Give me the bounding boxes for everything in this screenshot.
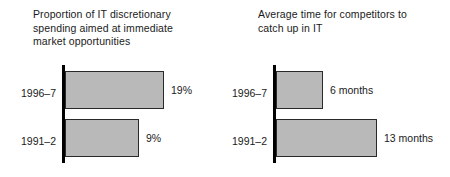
plot-area: 1996–7 19% 1991–2 9% (0, 55, 225, 177)
panel-title: Proportion of IT discretionary spending … (33, 8, 218, 49)
bar-1996-7 (276, 71, 323, 109)
bar-1991-2 (65, 119, 139, 157)
bar-value-label-1996-7: 6 months (330, 85, 373, 96)
category-label-1996-7: 1996–7 (219, 88, 267, 99)
bar-value-label-1996-7: 19% (171, 85, 192, 96)
bar-1996-7 (65, 71, 164, 109)
chart-panel-it-discretionary-spending: Proportion of IT discretionary spending … (0, 0, 225, 177)
bar-value-label-1991-2: 9% (146, 133, 161, 144)
bar-row: 9% (65, 119, 161, 157)
category-label-1991-2: 1991–2 (219, 136, 267, 147)
panel-title: Average time for competitors to catch up… (258, 8, 443, 35)
bar-row: 13 months (276, 119, 433, 157)
bar-value-label-1991-2: 13 months (384, 133, 433, 144)
bar-row: 19% (65, 71, 192, 109)
category-label-1996-7: 1996–7 (8, 88, 56, 99)
plot-area: 1996–7 6 months 1991–2 13 months (225, 55, 450, 177)
bar-row: 6 months (276, 71, 373, 109)
dual-bar-chart-figure: Proportion of IT discretionary spending … (0, 0, 450, 177)
bar-1991-2 (276, 119, 377, 157)
chart-panel-competitor-catch-up-time: Average time for competitors to catch up… (225, 0, 450, 177)
category-label-1991-2: 1991–2 (8, 136, 56, 147)
